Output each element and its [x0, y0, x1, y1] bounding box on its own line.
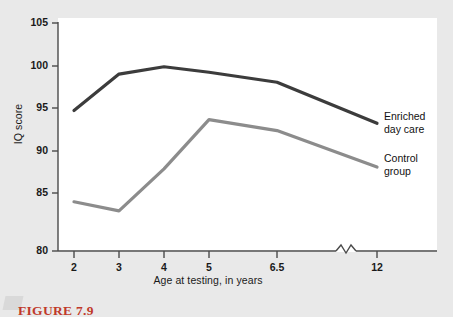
y-tick-label-85: 85 — [18, 186, 48, 198]
y-tick-label-100: 100 — [18, 59, 48, 71]
series-line-control-group — [74, 120, 377, 211]
x-tick-label-4: 4 — [144, 261, 184, 273]
figure-container: 105 100 95 90 85 80 2 3 4 5 6.5 12 IQ sc… — [0, 0, 453, 317]
x-axis-title: Age at testing, in years — [58, 274, 358, 286]
x-tick-label-2: 2 — [54, 261, 94, 273]
series-label-enriched-day-care: Enriched day care — [384, 110, 425, 135]
axis-break-icon — [336, 245, 356, 253]
x-tick-label-5: 5 — [189, 261, 229, 273]
y-axis-title: IQ score — [12, 89, 24, 159]
x-tick-label-3: 3 — [99, 261, 139, 273]
x-tick-label-6-5: 6.5 — [257, 261, 297, 273]
x-tick-label-12: 12 — [357, 261, 397, 273]
figure-caption: FIGURE 7.9 — [18, 303, 94, 317]
y-tick-label-105: 105 — [18, 16, 48, 28]
series-line-enriched-day-care — [74, 67, 377, 124]
series-label-control-group: Control group — [384, 152, 418, 177]
y-tick-label-80: 80 — [18, 244, 48, 256]
